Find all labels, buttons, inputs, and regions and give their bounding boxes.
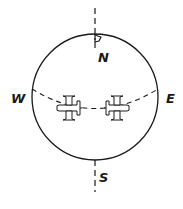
label-north: N — [98, 50, 109, 65]
flag-icon — [95, 34, 101, 48]
label-west: W — [11, 91, 26, 106]
label-south: S — [99, 170, 108, 185]
label-east: E — [166, 91, 175, 106]
equator-line — [32, 89, 158, 109]
globe-diagram: N S W E — [0, 0, 183, 209]
globe-circle — [32, 34, 158, 160]
airplane-icon-left — [57, 96, 84, 120]
airplane-icon-right — [102, 96, 129, 120]
